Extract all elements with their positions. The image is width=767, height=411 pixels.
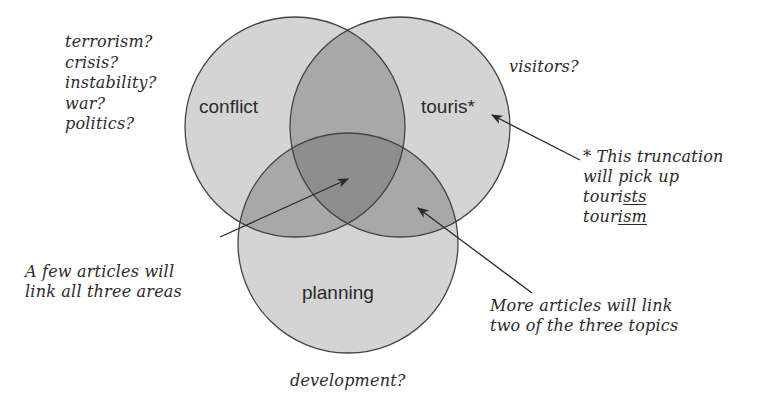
two-of-three-note: More articles will link two of the three… [490, 296, 678, 336]
label-conflict: conflict [199, 96, 258, 118]
label-planning: planning [302, 282, 374, 304]
synonym-war: war? [65, 94, 157, 115]
synonym-instability: instability? [65, 73, 157, 94]
planning-synonym: development? [290, 371, 406, 391]
example-tourism: tourism [583, 207, 724, 227]
conflict-synonyms: terrorism? crisis? instability? war? pol… [65, 32, 157, 135]
tourism-synonym: visitors? [509, 57, 579, 77]
label-tourism: touris* [421, 96, 475, 118]
synonym-politics: politics? [65, 114, 157, 135]
truncation-note: * This truncation will pick up tourists … [583, 147, 724, 227]
all-three-note: A few articles will link all three areas [25, 262, 182, 302]
example-tourists: tourists [583, 187, 724, 207]
synonym-terrorism: terrorism? [65, 32, 157, 53]
synonym-crisis: crisis? [65, 53, 157, 74]
